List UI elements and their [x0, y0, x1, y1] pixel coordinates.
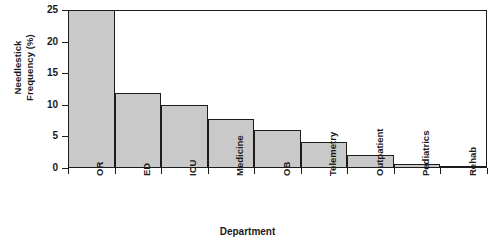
x-tick-mark: [440, 168, 441, 174]
x-tick-mark: [347, 168, 348, 174]
y-tick-label: 20: [18, 37, 58, 47]
x-tick-mark: [68, 168, 69, 174]
bar-telemetry: [301, 142, 348, 168]
x-category-label-rehab: Rehab: [468, 86, 478, 176]
x-category-label-ed: ED: [142, 86, 152, 176]
x-axis-title: Department: [0, 226, 495, 237]
x-category-label-ob: OB: [282, 86, 292, 176]
bar-ed: [115, 93, 162, 168]
x-category-label-telemetry: Telemetry: [328, 86, 338, 176]
x-tick-mark: [301, 168, 302, 174]
x-tick-mark: [115, 168, 116, 174]
x-category-label-medicine: Medicine: [235, 86, 245, 176]
x-tick-mark: [161, 168, 162, 174]
bar-pediatrics: [394, 164, 441, 168]
bar-rehab: [440, 166, 487, 168]
bar-ob: [254, 130, 301, 168]
x-tick-mark: [208, 168, 209, 174]
bar-medicine: [208, 119, 255, 168]
x-tick-mark: [394, 168, 395, 174]
figure-container: Needlestick Frequency (%) 0510152025 ORE…: [0, 0, 495, 248]
y-tick-label: 5: [18, 131, 58, 141]
x-tick-mark: [254, 168, 255, 174]
y-tick-label: 15: [18, 68, 58, 78]
x-category-label-pediatrics: Pediatrics: [421, 86, 431, 176]
x-category-label-or: OR: [95, 86, 105, 176]
y-tick-label: 0: [18, 163, 58, 173]
bar-or: [68, 10, 115, 168]
x-category-label-icu: ICU: [188, 86, 198, 176]
bar-icu: [161, 105, 208, 168]
y-tick-label: 10: [18, 100, 58, 110]
x-tick-mark: [487, 168, 488, 174]
bar-outpatient: [347, 155, 394, 168]
x-category-label-outpatient: Outpatient: [375, 86, 385, 176]
y-tick-label: 25: [18, 5, 58, 15]
